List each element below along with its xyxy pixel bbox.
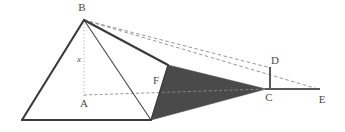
vertex-label-f: F: [153, 74, 159, 86]
vertex-label-e: E: [319, 93, 326, 105]
geometry-figure-canvas: B A F C D E x: [0, 0, 345, 132]
vertex-label-b: B: [78, 1, 85, 13]
vertex-label-d: D: [271, 54, 279, 66]
geometry-diagram: B A F C D E x: [0, 0, 345, 132]
vertex-label-a: A: [80, 97, 88, 109]
height-measure-label: x: [76, 54, 81, 64]
vertex-label-c: C: [265, 91, 272, 103]
